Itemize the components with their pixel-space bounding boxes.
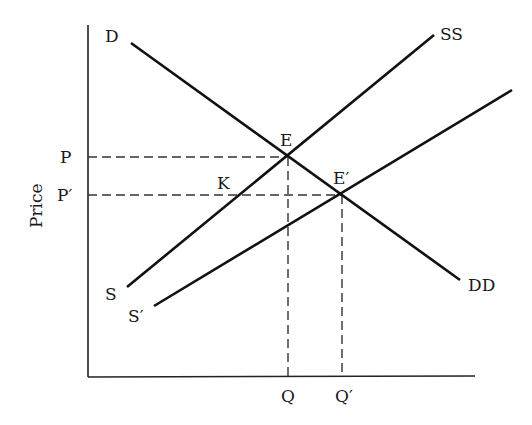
quantity-q-label: Q bbox=[281, 386, 295, 406]
supply-shifted-start-label: S′ bbox=[128, 306, 144, 326]
supply-end-label: SS bbox=[440, 24, 463, 44]
demand-start-label: D bbox=[105, 26, 119, 46]
supply-shifted-curve bbox=[154, 90, 512, 306]
equilibrium-e-label: E bbox=[280, 130, 292, 150]
point-k-label: K bbox=[217, 173, 230, 193]
price-p-label: P bbox=[60, 147, 71, 167]
supply-start-label: S bbox=[105, 284, 117, 304]
price-p-prime-label: P′ bbox=[57, 185, 72, 205]
supply-demand-diagram: D DD SS S S′ E E′ K P P′ Q Q′ Price bbox=[0, 0, 532, 425]
y-axis-label: Price bbox=[26, 183, 46, 228]
demand-end-label: DD bbox=[468, 275, 495, 295]
quantity-q-prime-label: Q′ bbox=[335, 386, 353, 406]
equilibrium-e-prime-label: E′ bbox=[333, 168, 349, 188]
x-axis bbox=[88, 376, 475, 377]
